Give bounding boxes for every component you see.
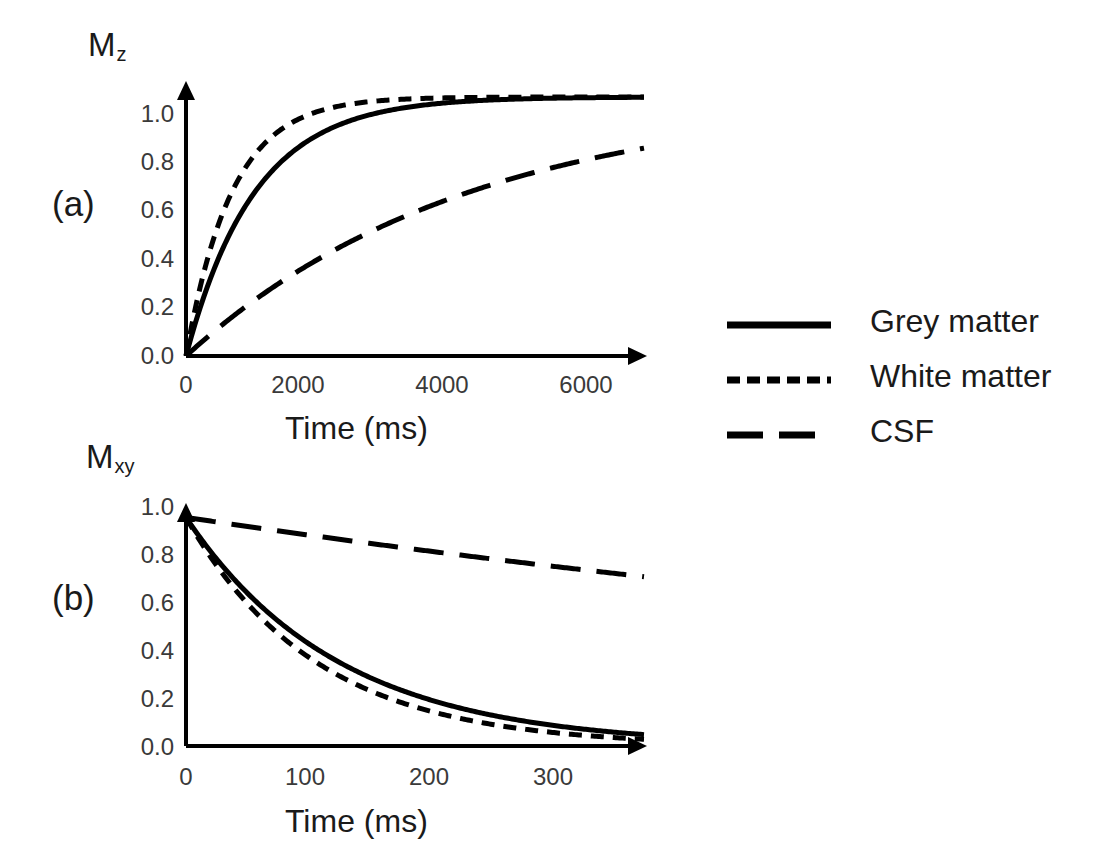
panel-a-plot [150,70,670,390]
panel-a-y-axis-subscript: z [117,43,127,65]
legend-label: CSF [870,415,934,447]
panel-a-y-axis-name: Mz [88,28,126,61]
legend-item-csf[interactable]: CSF [725,415,1095,470]
legend-label: White matter [870,360,1051,392]
panel-a-y-axis-symbol: M [88,26,116,63]
panel-b-x-axis-title: Time (ms) [285,805,428,837]
legend: Grey matter White matter CSF [725,305,1095,470]
panel-b-y-axis-name: Mxy [86,440,134,473]
panel-b-y-axis-subscript: xy [115,455,135,477]
panel-b-plot [150,462,670,782]
legend-label: Grey matter [870,305,1039,337]
panel-b-label: (b) [52,580,95,615]
legend-item-white-matter[interactable]: White matter [725,360,1095,415]
panel-a-x-axis-title: Time (ms) [285,412,428,444]
legend-item-grey-matter[interactable]: Grey matter [725,305,1095,360]
solid-line-icon [725,319,833,331]
figure-canvas: (a) Mz 1.0 0.8 0.6 0.4 0.2 0.0 0 2000 40… [0,0,1107,866]
panel-b-y-axis-symbol: M [86,438,114,475]
panel-a-label: (a) [52,186,95,221]
short-dashed-line-icon [725,374,833,386]
long-dashed-line-icon [725,429,833,441]
